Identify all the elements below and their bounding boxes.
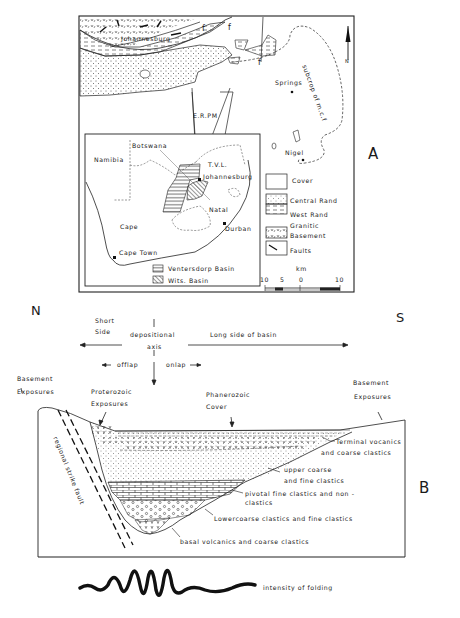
fault-marker-2: f — [228, 24, 231, 32]
springs-marker — [291, 91, 294, 94]
folding-intensity-curve — [80, 570, 255, 595]
namibia-label: Namibia — [94, 157, 124, 163]
offlap-label: offlap — [117, 362, 138, 368]
unit-lower-coarse: Lowercoarse clastics and fine clastics — [214, 516, 353, 522]
durban-label: Durban — [225, 226, 251, 232]
wits-swatch — [153, 276, 163, 283]
nigel-marker — [302, 159, 305, 162]
scale-unit: km — [296, 266, 307, 272]
basement-exposures-right-2: Exposures — [354, 394, 391, 400]
johannesburg-label: Johannesburg — [121, 36, 171, 42]
nigel-label: Nigel — [285, 150, 304, 156]
cape-town-label: Cape Town — [119, 250, 158, 256]
unit-basal-volcanics: basal volcanics and coarse clastics — [180, 539, 309, 545]
folding-intensity-label: intensity of folding — [263, 585, 333, 591]
depositional-axis-label: depositional — [130, 332, 175, 338]
proterozoic-label: Proterozoic — [91, 389, 132, 395]
basement-exposures-left: Basement — [17, 376, 53, 382]
cover-swatch — [266, 174, 287, 189]
depositional-axis-label-2: axis — [147, 344, 162, 350]
faults-swatch — [266, 241, 287, 255]
south-direction: S — [396, 311, 404, 324]
botswana-label: Botswana — [132, 143, 167, 149]
legend-cover: Cover — [292, 178, 313, 184]
unit-pivotal-2: clastics — [245, 500, 273, 506]
legend-west-rand: West Rand — [290, 212, 328, 218]
figure-drawing — [0, 0, 460, 618]
legend-central-rand: Central Rand — [290, 198, 338, 204]
short-side-label: Short — [95, 318, 115, 324]
north-direction: N — [31, 304, 41, 317]
unit-upper-coarse-2: and fine clastics — [284, 478, 344, 484]
scale-tick-10-left: 10 — [260, 277, 269, 283]
onlap-label: onlap — [166, 362, 186, 368]
phanerozoic-label: Phanerozoic — [206, 392, 250, 398]
legend-granitic: Granitic — [290, 223, 319, 229]
panel-a-label: A — [368, 147, 378, 162]
basement-exposures-left-2: Exposures — [17, 389, 54, 395]
fault-marker-1: f — [202, 25, 205, 33]
unit-terminal-volcanics-2: and coarse clastics — [321, 450, 391, 456]
scale-tick-0: 0 — [299, 277, 304, 283]
legend-basement: Basement — [290, 233, 326, 239]
basement-exposures-right: Basement — [353, 380, 389, 386]
cape-town-marker — [113, 256, 116, 259]
ventersdorp-swatch — [153, 265, 163, 272]
unit-upper-coarse: upper coarse — [284, 467, 332, 473]
central-rand-swatch — [266, 194, 287, 204]
johannesburg-inset-marker — [198, 178, 201, 181]
cross-section-panel — [21, 319, 405, 595]
proterozoic-label-2: Exposures — [91, 401, 128, 407]
long-side-label: Long side of basin — [210, 332, 277, 338]
panel-b-label: B — [419, 481, 429, 496]
tvl-label: T.V.L. — [208, 162, 227, 168]
unit-terminal-volcanics: Terminal vocanics — [336, 439, 401, 445]
wits-legend-label: Wits. Basin — [168, 278, 209, 284]
scale-tick-10-right: 10 — [335, 277, 344, 283]
unit-pivotal: pivotal fine clastics and non - — [245, 491, 355, 497]
north-label: N — [345, 59, 349, 64]
natal-label: Natal — [209, 207, 228, 213]
scale-tick-5: 5 — [280, 277, 285, 283]
granitic-basement-swatch — [266, 227, 287, 238]
west-rand-swatch — [266, 204, 287, 214]
phanerozoic-label-2: Cover — [206, 404, 227, 410]
legend-faults: Faults — [290, 248, 312, 254]
cape-label: Cape — [120, 224, 138, 230]
springs-label: Springs — [275, 80, 302, 86]
johannesburg-inset-label: Johannesburg — [203, 174, 253, 180]
erpm-label: E.R.PM — [193, 113, 218, 119]
short-side-label-2: Side — [95, 329, 111, 335]
ventersdorp-legend-label: Ventersdorp Basin — [168, 266, 235, 272]
fault-marker-3: f — [258, 59, 261, 67]
